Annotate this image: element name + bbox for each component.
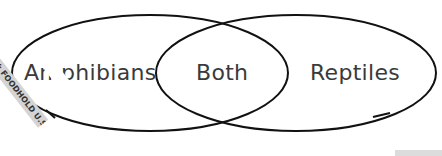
corner-bar (395, 150, 442, 156)
reptiles-label: Reptiles (310, 60, 400, 85)
both-label: Both (196, 60, 248, 85)
